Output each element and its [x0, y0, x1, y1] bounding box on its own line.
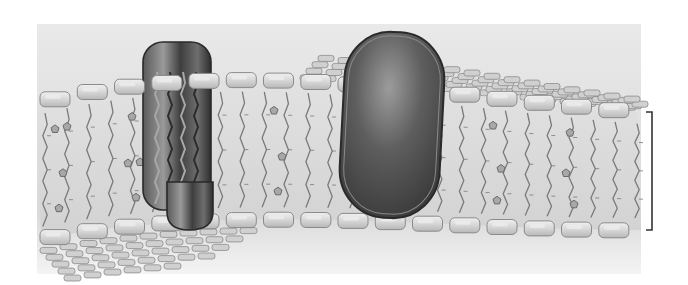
- globular-integral-protein: [337, 30, 447, 221]
- membrane-diagram: [0, 0, 688, 285]
- membrane-illustration: [0, 0, 688, 285]
- bilayer-bracket: [646, 112, 652, 230]
- channel-protein-cap: [167, 182, 213, 230]
